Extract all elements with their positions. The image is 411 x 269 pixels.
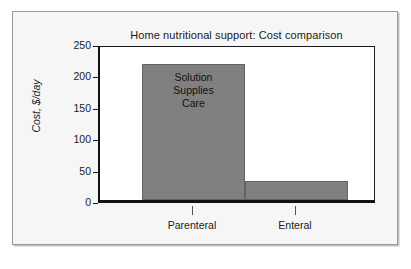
y-tick-label: 50 — [79, 165, 91, 177]
chart-title: Home nutritional support: Cost compariso… — [98, 29, 375, 41]
y-axis-ticks: 0 50 100 150 200 250 — [58, 46, 98, 203]
plot-area: Solution Supplies Care — [98, 46, 375, 203]
bar-parenteral[interactable]: Solution Supplies Care — [142, 64, 245, 200]
y-axis-label: Cost, $/day — [30, 61, 42, 151]
bar-annotation-line: Care — [143, 97, 244, 110]
bar-annotation-line: Supplies — [143, 84, 244, 97]
y-tick-label: 100 — [73, 133, 91, 145]
x-tick-label-parenteral: Parenteral — [168, 219, 216, 231]
bar-chart: Home nutritional support: Cost compariso… — [13, 12, 397, 244]
y-tick-label: 0 — [85, 196, 91, 208]
x-tick-mark — [192, 206, 193, 215]
bar-annotation-line: Solution — [143, 71, 244, 84]
figure-card: Home nutritional support: Cost compariso… — [12, 11, 398, 245]
y-tick-label: 200 — [73, 70, 91, 82]
x-tick-mark — [295, 206, 296, 215]
x-tick-label-enteral: Enteral — [278, 219, 311, 231]
y-tick-label: 250 — [73, 39, 91, 51]
y-tick-label: 150 — [73, 102, 91, 114]
y-tick-mark — [93, 203, 98, 204]
bar-series: Solution Supplies Care — [100, 47, 374, 200]
bar-annotation-group: Solution Supplies Care — [143, 71, 244, 110]
bar-enteral[interactable] — [245, 181, 348, 200]
